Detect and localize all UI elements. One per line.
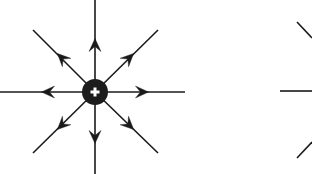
field-line-northwest	[33, 30, 95, 92]
field-line-southeast	[95, 92, 158, 153]
field-line-west	[0, 86, 95, 98]
fragment-line-lower-right	[297, 142, 312, 158]
field-line-southeast-shaft	[95, 92, 158, 153]
field-line-north	[89, 0, 101, 92]
positive-point-charge: +	[82, 79, 108, 105]
electric-field-diagram: +	[0, 0, 312, 174]
fragment-line-upper-right	[297, 22, 312, 38]
field-line-northeast	[95, 30, 158, 92]
field-diagram-canvas: +	[0, 0, 312, 174]
adjacent-figure-fragment	[280, 22, 312, 158]
field-line-southwest-shaft	[33, 92, 95, 153]
field-line-northwest-shaft	[33, 30, 95, 92]
field-line-southwest	[33, 92, 95, 153]
field-line-northeast-shaft	[95, 30, 158, 92]
field-line-east	[95, 86, 185, 98]
